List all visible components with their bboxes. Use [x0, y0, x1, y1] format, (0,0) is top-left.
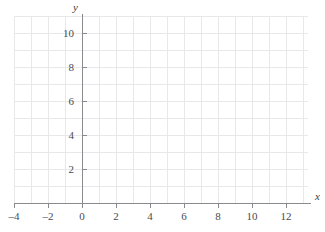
x-axis-tick [150, 204, 151, 208]
x-axis-tick-label: 12 [272, 210, 300, 222]
x-axis-tick-label: –2 [34, 210, 62, 222]
x-axis-tick [82, 204, 83, 208]
gridline-vertical [269, 16, 270, 203]
gridline-vertical [286, 16, 287, 203]
gridline-horizontal [14, 50, 308, 51]
x-axis-name-label: x [315, 190, 320, 202]
gridline-vertical [31, 16, 32, 203]
x-axis-tick-label: –4 [0, 210, 28, 222]
gridline-vertical [150, 16, 151, 203]
y-axis-tick [83, 169, 87, 170]
x-axis-tick [218, 204, 219, 208]
gridline-vertical [133, 16, 134, 203]
gridline-vertical [252, 16, 253, 203]
y-axis-tick-label: 10 [50, 27, 74, 39]
y-axis-tick [83, 67, 87, 68]
gridline-vertical [303, 16, 304, 203]
x-axis-tick-label: 0 [68, 210, 96, 222]
y-axis-tick-label: 8 [50, 61, 74, 73]
coordinate-grid-figure: –4–2024681012246810 x y [0, 0, 325, 232]
x-axis-tick-label: 10 [238, 210, 266, 222]
gridline-horizontal [14, 84, 308, 85]
gridline-vertical [235, 16, 236, 203]
gridline-horizontal [14, 118, 308, 119]
x-axis-tick [14, 204, 15, 208]
gridline-vertical [99, 16, 100, 203]
x-axis-tick [116, 204, 117, 208]
grid-lines [0, 0, 325, 232]
gridline-vertical [201, 16, 202, 203]
gridline-vertical [167, 16, 168, 203]
gridline-vertical [184, 16, 185, 203]
gridline-vertical [116, 16, 117, 203]
gridline-vertical [48, 16, 49, 203]
x-axis-tick-label: 8 [204, 210, 232, 222]
x-axis-tick [184, 204, 185, 208]
y-axis-tick [83, 101, 87, 102]
gridline-horizontal [14, 186, 308, 187]
y-axis-name-label: y [73, 1, 78, 13]
y-axis-tick-label: 2 [50, 163, 74, 175]
gridline-vertical [14, 16, 15, 203]
y-axis-tick [83, 33, 87, 34]
x-axis-tick-label: 2 [102, 210, 130, 222]
y-axis-tick-label: 6 [50, 95, 74, 107]
x-axis-tick [252, 204, 253, 208]
x-axis-tick-label: 4 [136, 210, 164, 222]
gridline-vertical [218, 16, 219, 203]
x-axis-tick-label: 6 [170, 210, 198, 222]
y-axis-line [82, 14, 83, 203]
x-axis-tick [286, 204, 287, 208]
gridline-horizontal [14, 16, 308, 17]
x-axis-line [14, 203, 311, 204]
y-axis-tick-label: 4 [50, 129, 74, 141]
gridline-horizontal [14, 152, 308, 153]
y-axis-tick [83, 135, 87, 136]
x-axis-tick [48, 204, 49, 208]
